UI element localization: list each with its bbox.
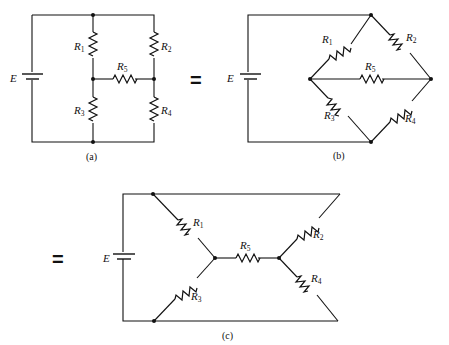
label-r4: R4 xyxy=(404,112,416,126)
node-dot xyxy=(91,13,95,17)
resistor-r3-icon xyxy=(89,97,97,121)
wire xyxy=(154,299,175,321)
label-r1: R1 xyxy=(321,33,333,47)
node-dot xyxy=(429,77,433,81)
wire-top-left xyxy=(248,15,371,72)
node-dot xyxy=(91,140,95,144)
resistor-r5-icon xyxy=(236,254,260,262)
wire xyxy=(310,59,329,79)
resistor-r1-icon xyxy=(329,47,351,60)
wire-left-lower xyxy=(123,259,154,321)
resistor-r1-icon xyxy=(177,219,190,235)
source-label: E xyxy=(102,252,110,264)
wire xyxy=(371,122,390,142)
node-dot xyxy=(152,319,156,323)
wire xyxy=(153,194,178,220)
label-r5: R5 xyxy=(116,60,128,74)
wire xyxy=(412,79,431,101)
label-r1: R1 xyxy=(192,216,204,230)
resistor-r5-icon xyxy=(360,75,384,83)
node-dot xyxy=(308,77,312,81)
node-dot xyxy=(213,256,217,260)
caption-a: (a) xyxy=(86,151,97,163)
resistor-r1-icon xyxy=(89,32,97,56)
node-dot xyxy=(151,192,155,196)
label-r1: R1 xyxy=(73,40,85,54)
label-r3: R3 xyxy=(323,109,335,123)
battery-icon xyxy=(240,74,261,79)
wire xyxy=(197,258,215,278)
resistor-r2-icon xyxy=(389,34,402,50)
resistor-r4-icon xyxy=(150,97,158,121)
equals-sign: = xyxy=(190,69,202,91)
node-dot xyxy=(369,13,373,17)
wire xyxy=(319,194,340,218)
resistor-r5-icon xyxy=(113,75,137,83)
wire xyxy=(198,238,215,258)
wire xyxy=(351,15,371,44)
wire xyxy=(410,53,431,79)
wire xyxy=(317,295,338,321)
node-dot xyxy=(91,77,95,81)
label-r3: R3 xyxy=(190,290,202,304)
wire xyxy=(371,15,390,35)
wire-left-upper xyxy=(123,194,153,252)
resistor-r2-icon xyxy=(150,32,158,56)
node-dot xyxy=(152,77,156,81)
label-r4: R4 xyxy=(310,272,322,286)
panel-b-diamond-bridge: E R1 R2 R3 R4 R5 (b) xyxy=(226,13,433,162)
battery-icon xyxy=(22,74,43,79)
node-dot xyxy=(369,140,373,144)
label-r2: R2 xyxy=(405,31,417,45)
panel-a-rectangular-bridge: E R1 R2 R3 R4 R5 (a) xyxy=(9,13,172,163)
label-r3: R3 xyxy=(73,104,85,118)
wire xyxy=(279,239,297,258)
node-dot xyxy=(277,256,281,260)
label-r5: R5 xyxy=(364,60,376,74)
panel-c-two-node-bridge: E R1 R2 R3 R4 R5 (c) xyxy=(102,192,340,342)
source-label: E xyxy=(226,72,234,84)
wire-bottom-left xyxy=(248,80,371,142)
caption-c: (c) xyxy=(222,330,233,342)
label-r2: R2 xyxy=(160,40,172,54)
wire xyxy=(310,79,328,98)
equals-sign: = xyxy=(52,248,64,270)
source-label: E xyxy=(9,72,17,84)
caption-b: (b) xyxy=(333,150,345,162)
label-r5: R5 xyxy=(239,239,251,253)
wire xyxy=(348,116,371,142)
wire xyxy=(279,258,297,277)
label-r2: R2 xyxy=(312,228,324,242)
resistor-r4-icon xyxy=(296,276,309,292)
battery-icon xyxy=(113,254,135,259)
bridge-circuit-figure: E R1 R2 R3 R4 R5 (a) = xyxy=(0,0,449,345)
label-r4: R4 xyxy=(160,104,172,118)
